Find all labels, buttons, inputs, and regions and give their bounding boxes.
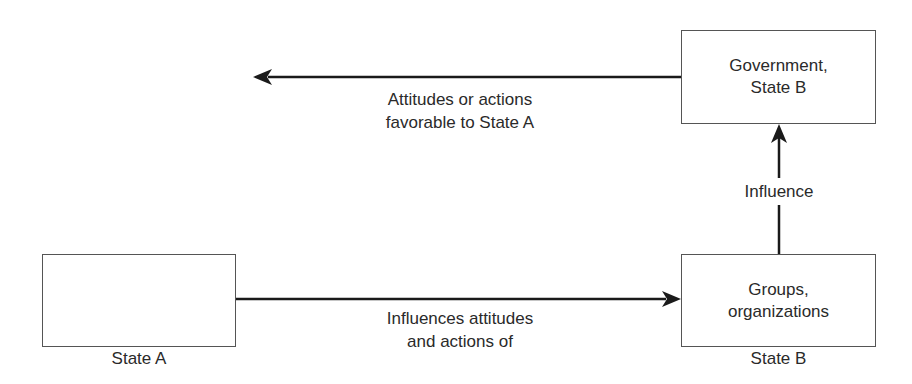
government-line-1: Government, bbox=[729, 55, 827, 77]
state-a-caption: State A bbox=[42, 347, 236, 370]
state-a-box bbox=[42, 254, 236, 347]
state-b-caption: State B bbox=[681, 347, 876, 370]
edge-label-influence: Influence bbox=[729, 180, 829, 203]
edge-label-favorable-line-2: favorable to State A bbox=[360, 111, 560, 134]
edge-label-influences-line-1: Influences attitudes bbox=[360, 307, 560, 330]
edge-label-favorable-attitudes: Attitudes or actions favorable to State … bbox=[360, 88, 560, 134]
government-state-b-box: Government, State B bbox=[681, 30, 876, 124]
state-b-caption-text: State B bbox=[681, 347, 876, 370]
groups-line-2: organizations bbox=[728, 301, 829, 323]
edge-label-influence-text: Influence bbox=[729, 180, 829, 203]
government-text: Government, State B bbox=[729, 55, 827, 99]
edge-label-influences-attitudes: Influences attitudes and actions of bbox=[360, 307, 560, 353]
edge-label-influences-line-2: and actions of bbox=[360, 330, 560, 353]
influence-diagram: State A Groups, organizations State B Go… bbox=[0, 0, 912, 384]
government-line-2: State B bbox=[729, 77, 827, 99]
groups-organizations-box: Groups, organizations bbox=[681, 254, 876, 347]
groups-organizations-text: Groups, organizations bbox=[728, 279, 829, 323]
groups-line-1: Groups, bbox=[728, 279, 829, 301]
state-a-caption-text: State A bbox=[42, 347, 236, 370]
edge-label-favorable-line-1: Attitudes or actions bbox=[360, 88, 560, 111]
arrow-state-a-to-groups bbox=[235, 291, 681, 307]
arrow-government-to-state-a bbox=[253, 69, 681, 85]
